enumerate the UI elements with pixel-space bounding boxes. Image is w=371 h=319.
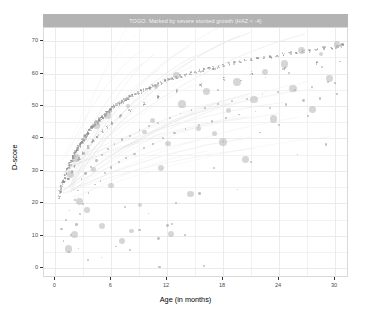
data-point-scatter — [307, 115, 309, 117]
x-tick-mark — [166, 277, 167, 280]
gridline-major-h — [44, 138, 347, 139]
data-point-scatter — [184, 234, 186, 236]
data-point-highlighted — [83, 136, 88, 141]
data-point-band — [62, 183, 64, 185]
data-point-band — [102, 115, 103, 116]
data-point-band — [82, 142, 84, 144]
data-point-scatter — [311, 86, 313, 88]
gridline-major-v — [55, 28, 56, 276]
data-point-scatter — [336, 93, 337, 94]
gridline-minor-v — [307, 28, 308, 276]
gridline-minor-h — [44, 122, 347, 123]
y-tick-label: 0 — [17, 264, 38, 270]
data-point-scatter — [302, 99, 305, 102]
y-tick-label: 20 — [17, 199, 38, 205]
data-point-highlighted — [73, 154, 81, 162]
data-point-band — [194, 71, 195, 72]
data-point-band — [214, 68, 216, 70]
data-point-highlighted — [65, 245, 72, 252]
x-tick-label: 24 — [268, 282, 288, 288]
data-point-scatter — [217, 103, 218, 104]
data-point-band — [223, 65, 225, 67]
data-point-scatter — [158, 266, 160, 268]
data-point-highlighted — [84, 207, 89, 212]
data-point-band — [80, 142, 82, 144]
data-point-band — [67, 178, 69, 180]
data-point-scatter — [152, 143, 154, 145]
data-point-band — [88, 129, 90, 131]
data-point-band — [284, 69, 285, 70]
data-point-scatter — [250, 161, 252, 163]
data-point-highlighted — [233, 78, 241, 86]
x-tick-mark — [110, 277, 111, 280]
data-point-band — [233, 63, 235, 65]
data-point-band — [276, 55, 277, 56]
data-point-band — [88, 133, 89, 134]
y-tick-mark — [40, 105, 43, 106]
data-point-band — [342, 44, 344, 46]
data-point-band — [99, 120, 100, 121]
y-tick-label: 70 — [17, 37, 38, 43]
data-point-band — [203, 68, 205, 70]
gridline-major-v — [111, 28, 112, 276]
data-point-scatter — [255, 111, 256, 112]
x-axis-label: Age (in months) — [0, 295, 371, 304]
data-point-highlighted — [262, 69, 268, 75]
data-point-highlighted — [154, 84, 159, 89]
y-axis-label: D-score — [10, 144, 19, 170]
data-point-scatter — [246, 98, 248, 100]
data-point-band — [107, 127, 108, 128]
y-tick-mark — [40, 170, 43, 171]
data-point-highlighted — [326, 75, 333, 82]
x-tick-label: 18 — [212, 282, 232, 288]
data-point-band — [145, 89, 146, 90]
data-point-scatter — [225, 117, 227, 119]
data-point-scatter — [157, 122, 159, 124]
data-point-highlighted — [242, 156, 249, 163]
data-point-highlighted — [108, 183, 114, 189]
data-point-band — [308, 49, 310, 51]
gridline-major-h — [44, 171, 347, 172]
data-point-highlighted — [250, 96, 257, 103]
chart-root: TOGO. Marked by severe stunted growth (H… — [0, 0, 371, 319]
gridline-major-h — [44, 236, 347, 237]
data-point-band — [181, 77, 182, 78]
data-point-scatter — [339, 61, 340, 62]
data-point-highlighted — [270, 115, 278, 123]
data-point-band — [135, 93, 136, 94]
data-point-highlighted — [71, 231, 78, 238]
data-point-highlighted — [67, 171, 74, 178]
y-tick-label: 10 — [17, 232, 38, 238]
gridline-minor-v — [195, 28, 196, 276]
data-point-scatter — [65, 219, 67, 221]
y-tick-label: 30 — [17, 167, 38, 173]
data-point-scatter — [204, 107, 205, 108]
data-point-band — [141, 92, 143, 94]
gridline-minor-h — [44, 155, 347, 156]
data-point-scatter — [84, 172, 86, 174]
data-point-scatter — [198, 192, 200, 194]
data-point-band — [341, 46, 343, 48]
y-tick-label: 50 — [17, 102, 38, 108]
data-point-highlighted — [150, 118, 155, 123]
data-point-highlighted — [168, 231, 174, 237]
y-tick-mark — [40, 73, 43, 74]
data-point-band — [212, 66, 214, 68]
data-point-scatter — [175, 202, 177, 204]
data-point-scatter — [118, 161, 120, 163]
data-point-highlighted — [334, 41, 341, 48]
data-point-scatter — [211, 120, 214, 123]
gridline-minor-h — [44, 90, 347, 91]
y-tick-mark — [40, 40, 43, 41]
data-point-band — [152, 85, 153, 86]
gridline-major-v — [279, 28, 280, 276]
data-point-band — [316, 63, 317, 64]
data-point-band — [101, 116, 103, 118]
gridline-major-v — [335, 28, 336, 276]
gridline-major-h — [44, 268, 347, 269]
data-point-scatter — [166, 224, 169, 227]
trajectory-line — [65, 49, 144, 158]
x-tick-label: 6 — [100, 282, 120, 288]
data-point-scatter — [95, 159, 98, 162]
data-point-highlighted — [187, 191, 193, 197]
